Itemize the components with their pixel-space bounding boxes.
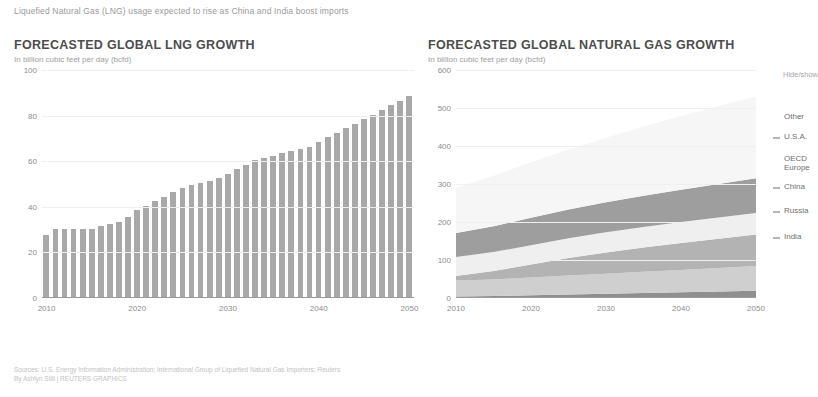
x-tick-label: 2030 xyxy=(597,304,615,313)
legend-dash-icon xyxy=(773,187,780,189)
left-y-tick-label: 60 xyxy=(28,157,37,166)
left-y-tick-label: 100 xyxy=(24,66,37,75)
bar[interactable] xyxy=(89,229,95,297)
bar[interactable] xyxy=(388,105,394,297)
bar[interactable] xyxy=(170,192,176,297)
x-tick-label: 2050 xyxy=(401,304,419,313)
hide-show-toggle[interactable]: Hide/show xyxy=(760,70,818,79)
right-y-tick-label: 100 xyxy=(438,256,451,265)
left-gridline xyxy=(42,161,414,162)
x-tick-label: 2020 xyxy=(128,304,146,313)
right-y-tick-label: 300 xyxy=(438,180,451,189)
kicker-headline: Liquefied Natural Gas (LNG) usage expect… xyxy=(14,6,349,16)
bar[interactable] xyxy=(343,128,349,297)
bar[interactable] xyxy=(334,133,340,297)
bar[interactable] xyxy=(270,156,276,297)
x-tick-label: 2010 xyxy=(447,304,465,313)
legend-item-china[interactable]: China xyxy=(773,182,818,191)
bar[interactable] xyxy=(180,188,186,297)
bar[interactable] xyxy=(80,229,86,297)
bar[interactable] xyxy=(234,169,240,297)
bar[interactable] xyxy=(53,229,59,297)
left-chart-title: FORECASTED GLOBAL LNG GROWTH xyxy=(14,38,414,52)
legend-label: OECD Europe xyxy=(784,154,818,172)
x-tick-label: 2010 xyxy=(38,304,56,313)
x-tick-label: 2040 xyxy=(672,304,690,313)
legend-dash-icon xyxy=(773,159,780,161)
left-y-tick-label: 20 xyxy=(28,248,37,257)
legend-item-india[interactable]: India xyxy=(773,232,818,241)
left-gridline xyxy=(42,252,414,253)
footer-byline: By Ashlyn Still | REUTERS GRAPHICS xyxy=(14,374,340,383)
bar[interactable] xyxy=(307,147,313,297)
legend-dash-icon xyxy=(773,211,780,213)
bar[interactable] xyxy=(252,160,258,297)
right-gridline xyxy=(456,260,756,261)
legend-label: U.S.A. xyxy=(784,132,818,141)
right-y-tick-label: 0 xyxy=(447,294,451,303)
bar[interactable] xyxy=(225,174,231,297)
legend-item-oecd-europe[interactable]: OECD Europe xyxy=(773,154,818,172)
bar[interactable] xyxy=(71,229,77,297)
bar[interactable] xyxy=(361,119,367,297)
bar[interactable] xyxy=(125,217,131,297)
right-gridline xyxy=(456,70,756,71)
bar[interactable] xyxy=(298,149,304,297)
left-bar-series xyxy=(42,70,414,297)
right-y-tick-label: 600 xyxy=(438,66,451,75)
left-y-tick-label: 0 xyxy=(33,294,37,303)
right-chart-plot-area: 0100200300400500600 20102020203020402050… xyxy=(428,70,818,316)
right-gridline xyxy=(456,184,756,185)
bar[interactable] xyxy=(243,165,249,297)
legend-label: China xyxy=(784,182,818,191)
legend-dash-icon xyxy=(773,117,780,119)
left-chart-subtitle: In billion cubic feet per day (bcfd) xyxy=(14,55,414,64)
bar[interactable] xyxy=(198,183,204,297)
bar[interactable] xyxy=(62,229,68,297)
right-area-chart: 0100200300400500600 xyxy=(456,70,756,298)
right-y-tick-label: 400 xyxy=(438,142,451,151)
left-y-tick-label: 80 xyxy=(28,111,37,120)
left-y-tick-label: 40 xyxy=(28,202,37,211)
right-chart-title: FORECASTED GLOBAL NATURAL GAS GROWTH xyxy=(428,38,818,52)
right-chart-subtitle: In billion cubic feet per day (bcfd) xyxy=(428,55,818,64)
legend-label: India xyxy=(784,232,818,241)
x-tick-label: 2020 xyxy=(522,304,540,313)
bar[interactable] xyxy=(379,110,385,297)
legend-item-russia[interactable]: Russia xyxy=(773,206,818,215)
bar[interactable] xyxy=(279,153,285,297)
bar[interactable] xyxy=(352,124,358,297)
x-tick-label: 2050 xyxy=(747,304,765,313)
bar[interactable] xyxy=(207,181,213,297)
x-tick-label: 2040 xyxy=(310,304,328,313)
bar[interactable] xyxy=(397,101,403,297)
right-gridline xyxy=(456,222,756,223)
bar[interactable] xyxy=(370,115,376,297)
chart-legend[interactable]: Hide/show OtherU.S.A.OECD EuropeChinaRus… xyxy=(760,70,818,298)
bar[interactable] xyxy=(161,197,167,297)
bar[interactable] xyxy=(116,222,122,297)
left-chart-plot-area: 020406080100 20102020203020402050 xyxy=(14,70,414,316)
bar[interactable] xyxy=(189,185,195,297)
right-gridline xyxy=(456,108,756,109)
bar[interactable] xyxy=(43,235,49,297)
bar[interactable] xyxy=(216,178,222,297)
footer-sources: Sources: U.S. Energy Information Adminis… xyxy=(14,365,340,374)
bar[interactable] xyxy=(98,226,104,297)
right-gridline xyxy=(456,146,756,147)
bar[interactable] xyxy=(107,224,113,297)
legend-dash-icon xyxy=(773,237,780,239)
bar[interactable] xyxy=(316,142,322,297)
bar[interactable] xyxy=(288,151,294,297)
legend-item-u-s-a-[interactable]: U.S.A. xyxy=(773,132,818,141)
bar[interactable] xyxy=(406,96,412,297)
left-x-axis-labels: 20102020203020402050 xyxy=(42,298,414,316)
bar[interactable] xyxy=(134,210,140,297)
legend-item-other[interactable]: Other xyxy=(773,112,818,121)
bar[interactable] xyxy=(152,201,158,297)
bar[interactable] xyxy=(261,158,267,297)
right-y-tick-label: 200 xyxy=(438,218,451,227)
panel-lng-growth: FORECASTED GLOBAL LNG GROWTH In billion … xyxy=(14,38,414,316)
left-gridline xyxy=(42,207,414,208)
legend-label: Russia xyxy=(784,206,818,215)
